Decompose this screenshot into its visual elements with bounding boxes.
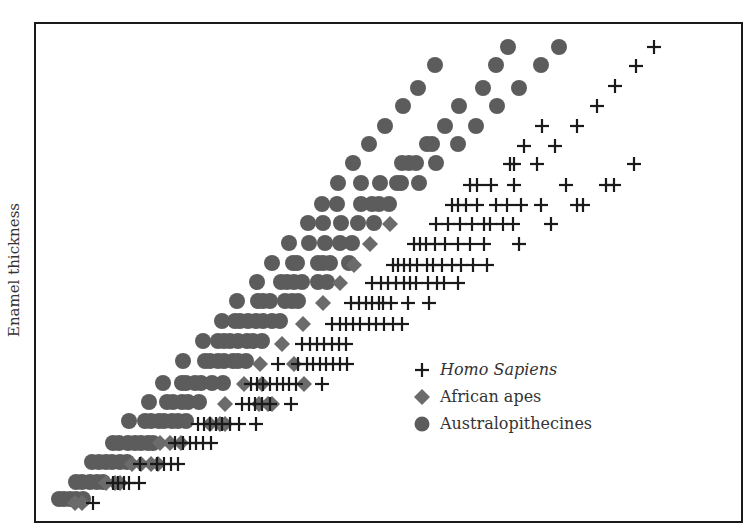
plus-marker bbox=[506, 217, 520, 231]
circle-marker bbox=[427, 57, 443, 73]
circle-marker bbox=[229, 293, 245, 309]
plus-marker bbox=[514, 198, 528, 212]
plus-marker bbox=[454, 258, 468, 272]
circle-marker bbox=[395, 98, 411, 114]
plus-marker bbox=[249, 417, 263, 431]
plus-marker bbox=[384, 296, 398, 310]
circle-marker bbox=[238, 353, 254, 369]
plus-marker bbox=[559, 178, 573, 192]
circle-marker bbox=[500, 39, 516, 55]
plus-marker bbox=[171, 457, 185, 471]
circle-marker bbox=[410, 80, 426, 96]
circle-marker bbox=[175, 353, 191, 369]
diamond-marker bbox=[274, 336, 290, 352]
plus-marker bbox=[232, 417, 246, 431]
plus-marker bbox=[438, 237, 452, 251]
circle-marker bbox=[489, 98, 505, 114]
plus-marker bbox=[437, 276, 451, 290]
circle-marker bbox=[361, 136, 377, 152]
plus-marker bbox=[470, 178, 484, 192]
circle-marker bbox=[344, 235, 360, 251]
plus-marker bbox=[465, 217, 479, 231]
circle-marker bbox=[488, 57, 504, 73]
circle-marker bbox=[353, 175, 369, 191]
circle-marker bbox=[301, 235, 317, 251]
scatter-plot bbox=[0, 0, 749, 530]
circle-marker bbox=[290, 293, 306, 309]
circle-marker bbox=[393, 175, 409, 191]
circle-marker bbox=[372, 175, 388, 191]
circle-marker bbox=[381, 196, 397, 212]
plus-marker bbox=[271, 357, 285, 371]
plus-marker bbox=[627, 157, 641, 171]
plus-marker bbox=[544, 217, 558, 231]
plus-marker bbox=[484, 178, 498, 192]
plus-marker bbox=[548, 139, 562, 153]
circle-marker bbox=[428, 155, 444, 171]
plus-marker bbox=[500, 198, 514, 212]
plus-marker bbox=[451, 276, 465, 290]
circle-marker bbox=[249, 274, 265, 290]
circle-marker bbox=[475, 80, 491, 96]
circle-marker bbox=[294, 274, 310, 290]
legend-label: Homo Sapiens bbox=[440, 360, 557, 379]
circle-marker bbox=[322, 255, 338, 271]
circle-marker bbox=[533, 57, 549, 73]
circle-marker bbox=[350, 215, 366, 231]
circle-marker bbox=[366, 215, 382, 231]
plus-marker-icon bbox=[414, 362, 430, 378]
circle-marker bbox=[450, 136, 466, 152]
plus-marker bbox=[535, 119, 549, 133]
circle-marker bbox=[319, 274, 335, 290]
diamond-marker bbox=[252, 356, 268, 372]
circle-marker bbox=[314, 196, 330, 212]
plus-marker bbox=[607, 178, 621, 192]
diamond-marker bbox=[332, 275, 348, 291]
circle-marker bbox=[155, 375, 171, 391]
circle-marker bbox=[191, 394, 207, 410]
circle-marker bbox=[408, 155, 424, 171]
legend-item-australopithecines: Australopithecines bbox=[414, 410, 592, 437]
circle-marker bbox=[451, 98, 467, 114]
plus-marker bbox=[132, 476, 146, 490]
plus-marker bbox=[477, 237, 491, 251]
plus-marker bbox=[204, 436, 218, 450]
circle-marker bbox=[377, 118, 393, 134]
circle-marker-icon bbox=[414, 416, 430, 432]
plus-marker bbox=[517, 139, 531, 153]
plus-marker bbox=[339, 337, 353, 351]
circle-marker bbox=[511, 80, 527, 96]
plus-marker bbox=[534, 198, 548, 212]
plus-marker bbox=[608, 79, 622, 93]
diamond-marker bbox=[217, 396, 233, 412]
plus-marker bbox=[422, 296, 436, 310]
plus-marker bbox=[441, 217, 455, 231]
circle-marker bbox=[330, 175, 346, 191]
circle-marker bbox=[411, 175, 427, 191]
circle-marker bbox=[141, 394, 157, 410]
diamond-marker bbox=[295, 316, 311, 332]
circle-marker bbox=[254, 333, 270, 349]
plus-marker bbox=[590, 99, 604, 113]
plus-marker bbox=[395, 317, 409, 331]
circle-marker bbox=[315, 215, 331, 231]
legend-label: African apes bbox=[440, 387, 541, 406]
plus-marker bbox=[480, 258, 494, 272]
legend: Homo Sapiens African apes Australopithec… bbox=[414, 356, 592, 437]
plus-marker bbox=[629, 59, 643, 73]
plus-marker bbox=[315, 377, 329, 391]
circle-marker bbox=[215, 375, 231, 391]
diamond-marker bbox=[315, 295, 331, 311]
diamond-marker-icon bbox=[414, 389, 430, 405]
plus-marker bbox=[570, 119, 584, 133]
circle-marker bbox=[281, 235, 297, 251]
legend-item-homo-sapiens: Homo Sapiens bbox=[414, 356, 592, 383]
plus-marker bbox=[401, 296, 415, 310]
plus-marker bbox=[451, 237, 465, 251]
circle-marker bbox=[329, 196, 345, 212]
circle-marker bbox=[551, 39, 567, 55]
circle-marker bbox=[424, 136, 440, 152]
plus-marker bbox=[429, 217, 443, 231]
diamond-marker bbox=[362, 236, 378, 252]
plus-marker bbox=[466, 258, 480, 272]
